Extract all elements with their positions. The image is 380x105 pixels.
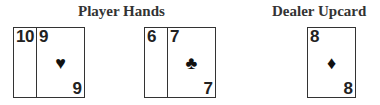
- card-rank: 7: [170, 27, 179, 47]
- dealer-card-8-diamonds[interactable]: 8 ♦ 8: [307, 27, 356, 98]
- card-7-clubs[interactable]: 7 ♣ 7: [167, 27, 216, 98]
- card-rank-bottom: 9: [73, 79, 82, 99]
- heart-icon: ♥: [55, 54, 66, 72]
- card-rank: 8: [310, 27, 319, 47]
- player-hands-heading: Player Hands: [78, 3, 165, 20]
- card-rank: 9: [39, 27, 48, 47]
- card-rank: 10: [16, 27, 34, 47]
- club-icon: ♣: [186, 54, 198, 72]
- dealer-upcard-heading: Dealer Upcard: [272, 3, 366, 20]
- card-rank: 6: [147, 27, 156, 47]
- card-9-hearts[interactable]: 9 ♥ 9: [36, 27, 85, 98]
- diamond-icon: ♦: [327, 54, 336, 72]
- card-rank-bottom: 8: [344, 79, 353, 99]
- card-rank-bottom: 7: [204, 79, 213, 99]
